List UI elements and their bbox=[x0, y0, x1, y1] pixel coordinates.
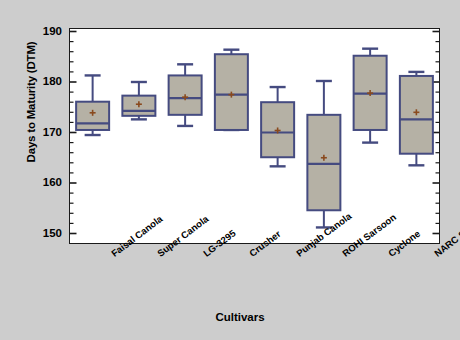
box-iqr bbox=[307, 115, 340, 210]
box-plot-7 bbox=[354, 49, 387, 143]
x-axis-title: Cultivars bbox=[150, 311, 330, 323]
box-plot-figure: Days to Maturity (DTM) Cultivars 1501601… bbox=[0, 0, 460, 340]
y-tick-label: 180 bbox=[30, 75, 62, 87]
y-tick-label: 160 bbox=[30, 176, 62, 188]
box-iqr bbox=[76, 102, 109, 130]
box-plot-1 bbox=[76, 75, 109, 135]
y-tick-label: 190 bbox=[30, 25, 62, 37]
y-axis-title: Days to Maturity (DTM) bbox=[25, 17, 37, 187]
box-plot-8 bbox=[400, 72, 433, 165]
y-tick-label: 170 bbox=[30, 126, 62, 138]
box-plot-5 bbox=[261, 87, 294, 166]
box-plot-3 bbox=[169, 64, 202, 126]
box-plot-4 bbox=[215, 50, 248, 130]
box-plot-2 bbox=[122, 82, 155, 119]
chart-svg bbox=[0, 0, 460, 340]
y-tick-label: 150 bbox=[30, 227, 62, 239]
box-plot-6 bbox=[307, 81, 340, 227]
